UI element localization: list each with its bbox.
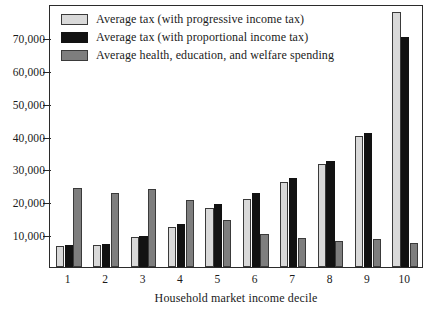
bar: [410, 243, 418, 267]
x-tick-label: 10: [399, 273, 411, 285]
legend-item: Average tax (with progressive income tax…: [61, 12, 334, 26]
bar: [289, 178, 297, 267]
x-tick-label: 4: [177, 273, 183, 285]
x-axis-title: Household market income decile: [49, 291, 423, 306]
legend-item: Average health, education, and welfare s…: [61, 48, 334, 62]
bar: [148, 189, 156, 267]
legend-item: Average tax (with proportional income ta…: [61, 30, 334, 44]
bar: [65, 245, 73, 267]
y-tick-label: 60,000: [13, 66, 45, 78]
bar: [243, 199, 251, 267]
bar: [401, 37, 409, 267]
y-tick-label: 20,000: [13, 197, 45, 209]
bar: [93, 245, 101, 267]
bar: [318, 164, 326, 267]
bar: [223, 220, 231, 267]
legend-label: Average tax (with progressive income tax…: [96, 12, 304, 27]
bar: [335, 241, 343, 267]
bar: [280, 182, 288, 267]
y-tick-label: 50,000: [13, 99, 45, 111]
bar: [139, 236, 147, 267]
legend-label: Average tax (with proportional income ta…: [96, 30, 308, 45]
x-tick-label: 6: [252, 273, 258, 285]
y-tick-label: 40,000: [13, 132, 45, 144]
bar: [373, 239, 381, 267]
bar: [205, 208, 213, 267]
y-tick-label: 30,000: [13, 164, 45, 176]
bar: [102, 244, 110, 267]
x-tick-label: 7: [289, 273, 295, 285]
bar: [73, 188, 81, 267]
legend-swatch-icon: [61, 50, 88, 61]
bar: [168, 227, 176, 267]
legend-swatch-icon: [61, 32, 88, 43]
bar: [252, 193, 260, 267]
legend-swatch-icon: [61, 14, 88, 25]
bar: [131, 237, 139, 267]
bar-group: [387, 6, 424, 267]
x-tick-label: 2: [102, 273, 108, 285]
bar: [298, 238, 306, 267]
bar: [214, 204, 222, 267]
x-axis: 12345678910: [49, 268, 423, 290]
bar: [186, 200, 194, 267]
y-tick-label: 10,000: [13, 230, 45, 242]
x-tick-label: 1: [65, 273, 71, 285]
legend-label: Average health, education, and welfare s…: [96, 48, 334, 63]
bar: [260, 234, 268, 267]
plot-area: 10,00020,00030,00040,00050,00060,00070,0…: [49, 5, 423, 268]
bar: [355, 136, 363, 268]
bar-group: [349, 6, 386, 267]
bar: [177, 224, 185, 267]
chart-legend: Average tax (with progressive income tax…: [61, 12, 334, 62]
bar-chart-figure: 10,00020,00030,00040,00050,00060,00070,0…: [0, 0, 431, 314]
bar: [392, 12, 400, 267]
bar: [56, 246, 64, 267]
x-tick-label: 8: [327, 273, 333, 285]
bar: [326, 161, 334, 267]
bar: [364, 133, 372, 267]
x-tick-label: 3: [140, 273, 146, 285]
x-tick-label: 9: [364, 273, 370, 285]
bar: [111, 193, 119, 267]
y-tick-label: 70,000: [13, 33, 45, 45]
x-tick-label: 5: [214, 273, 220, 285]
